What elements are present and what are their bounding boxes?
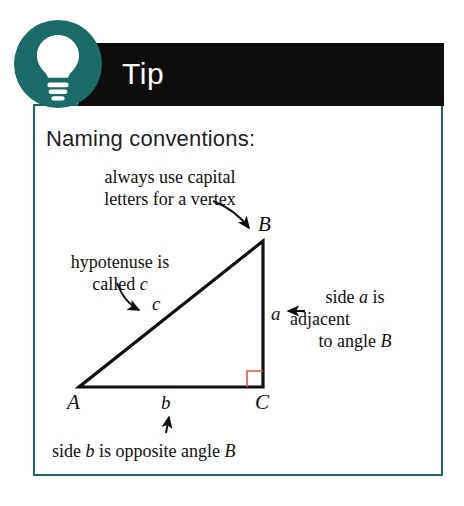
hypotenuse-note-line2: called c (42, 273, 198, 295)
tip-card: Tip Naming conventions: always use capit… (0, 0, 464, 506)
tip-banner: Tip (78, 43, 444, 106)
hypotenuse-note-called: called (92, 274, 139, 294)
adjacent-note-symbol-B: B (380, 331, 391, 351)
adjacent-note-line3: to angle B (290, 330, 420, 352)
side-label-a: a (271, 303, 281, 325)
hypotenuse-note-symbol: c (140, 274, 148, 294)
vertex-note-line1: always use capital (80, 166, 260, 188)
adjacent-note: side a is adjacent to angle B (290, 286, 420, 352)
opposite-note-symbol-B: B (224, 441, 235, 461)
side-label-c: c (152, 293, 160, 315)
opposite-note: side b is opposite angle B (52, 440, 235, 462)
page-title: Naming conventions: (46, 126, 255, 152)
adjacent-note-line2: adjacent (290, 308, 420, 330)
adjacent-note-symbol-a: a (359, 287, 368, 307)
adjacent-note-to-angle: to angle (319, 331, 381, 351)
vertex-note-line2: letters for a vertex (80, 188, 260, 210)
adjacent-note-is: is (368, 287, 385, 307)
opposite-note-symbol-b: b (86, 441, 95, 461)
adjacent-note-line1: side a is (290, 286, 420, 308)
vertex-label-A: A (67, 390, 80, 415)
lightbulb-icon (14, 20, 102, 108)
hypotenuse-note-line1: hypotenuse is (42, 251, 198, 273)
vertex-note: always use capital letters for a vertex (80, 166, 260, 210)
hypotenuse-note: hypotenuse is called c (42, 251, 198, 295)
vertex-label-B: B (258, 212, 271, 237)
side-label-b: b (161, 392, 171, 414)
opposite-note-side: side (52, 441, 86, 461)
adjacent-note-side: side (325, 287, 359, 307)
tip-banner-label: Tip (122, 55, 164, 93)
opposite-note-middle: is opposite angle (95, 441, 225, 461)
vertex-label-C: C (255, 390, 269, 415)
